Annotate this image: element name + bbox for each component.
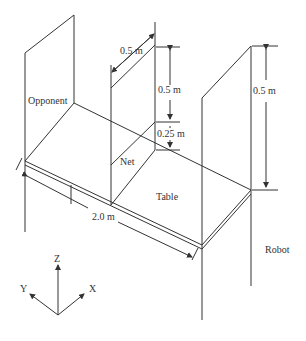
robot-height-label: 0.5 m <box>253 86 276 96</box>
opponent-panel <box>25 15 74 232</box>
table-label: Table <box>156 192 178 202</box>
robot-label: Robot <box>265 245 289 255</box>
coordinate-axes <box>30 265 84 315</box>
table-top <box>25 103 251 249</box>
robot-height-dimension <box>252 46 278 190</box>
table-length-label: 2.0 m <box>92 212 115 222</box>
diagram-drawing <box>0 0 306 341</box>
net-gap-label: 0.25 m <box>157 129 185 139</box>
net-width-label: 0.5 m <box>120 46 143 56</box>
y-axis-label: Y <box>20 284 27 294</box>
opponent-label: Opponent <box>28 96 67 106</box>
ping-pong-setup-diagram: Opponent Net Table Robot 0.5 m 0.5 m 0.2… <box>0 0 306 341</box>
z-axis-label: Z <box>54 254 60 264</box>
x-axis-label: X <box>89 284 96 294</box>
net-height-label: 0.5 m <box>158 85 181 95</box>
net-label: Net <box>120 157 134 167</box>
robot-panel <box>202 46 251 320</box>
